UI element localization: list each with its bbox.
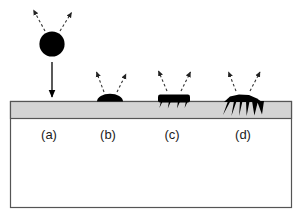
emitted-arrow-c-left <box>159 71 168 91</box>
emitted-arrow-b-right <box>117 74 126 92</box>
stage-label-c: (c) <box>164 127 179 142</box>
particle-dome-b <box>97 94 123 102</box>
stage-label-b: (b) <box>100 127 116 142</box>
emitted-arrow-d-left <box>229 72 237 91</box>
emitted-arrow-c-right <box>181 72 191 91</box>
figure-canvas: (a) (b) (c) (d) <box>0 0 302 217</box>
schematic-diagram <box>0 0 302 217</box>
particle-slab-c <box>158 95 190 103</box>
emitted-arrow-a-left <box>34 10 46 31</box>
stage-label-a: (a) <box>41 127 57 142</box>
emitted-arrow-a-right <box>60 13 72 32</box>
emitted-arrow-d-right <box>250 72 260 91</box>
surface-layer <box>11 102 292 119</box>
stage-a-group <box>34 10 72 97</box>
particle-sphere-a <box>39 31 64 56</box>
stage-label-d: (d) <box>235 127 251 142</box>
particle-cap-d <box>224 95 262 103</box>
emitted-arrow-b-left <box>97 72 105 92</box>
stage-b-group <box>97 72 127 102</box>
